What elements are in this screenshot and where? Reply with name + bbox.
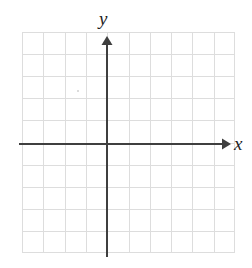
coordinate-plane-figure: y x	[0, 0, 252, 268]
y-axis-arrowhead	[102, 36, 113, 45]
x-axis-label: x	[234, 134, 242, 153]
x-axis-arrowhead	[222, 139, 231, 150]
y-axis-label: y	[99, 9, 107, 28]
axes-group	[0, 0, 252, 268]
